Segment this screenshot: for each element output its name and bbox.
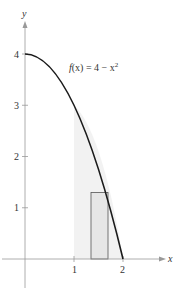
y-tick-label-1: 1 — [14, 202, 19, 213]
x-axis-label: x — [167, 253, 173, 264]
x-tick-label-2: 2 — [120, 264, 125, 275]
y-axis-label: y — [21, 8, 27, 19]
y-tick-label-2: 2 — [14, 151, 19, 162]
approx-rectangle — [91, 192, 108, 259]
function-body: (x) = 4 − x — [72, 62, 115, 74]
x-axis-arrow-icon — [159, 257, 166, 262]
function-exponent: 2 — [115, 61, 119, 69]
y-tick-label-4: 4 — [14, 49, 19, 60]
x-tick-label-1: 1 — [72, 264, 77, 275]
y-axis-arrow-icon — [23, 21, 28, 28]
chart-canvas: x y 1 2 1 2 3 4 f(x) = 4 − x2 — [0, 0, 177, 290]
function-annotation: f(x) = 4 − x2 — [69, 61, 119, 74]
y-tick-label-3: 3 — [14, 100, 19, 111]
